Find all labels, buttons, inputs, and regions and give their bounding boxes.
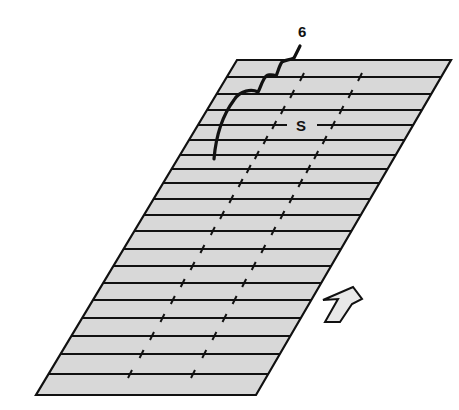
label-s: S [296, 118, 306, 133]
label-six: 6 [298, 24, 306, 39]
up-right-arrow-icon [323, 287, 362, 322]
strip-field-diagram [0, 0, 459, 410]
